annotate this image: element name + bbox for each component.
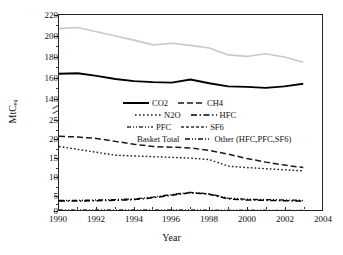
x-axis-title: Year	[0, 232, 343, 243]
x-tick-1998: 1998	[192, 214, 226, 224]
y-tick-140: 140	[6, 95, 58, 104]
x-tick-2002: 2002	[268, 214, 302, 224]
y-tick-180: 180	[6, 53, 58, 62]
x-minortick-2003	[304, 207, 305, 209]
x-tickmark-1998	[209, 207, 210, 211]
legend-item-hfc: HFC	[191, 110, 237, 120]
legend-row-2: N2O HFC	[113, 109, 318, 121]
x-minortick-1991	[77, 207, 78, 209]
x-tickmark-1996	[171, 207, 172, 211]
series-n2o	[59, 146, 303, 170]
legend-sample-n2o	[135, 111, 161, 119]
legend-label-pfc: PFC	[156, 122, 171, 132]
legend-sample-pfc	[127, 123, 153, 131]
legend-label-n2o: N2O	[164, 110, 181, 120]
x-minortick-1997	[190, 207, 191, 209]
x-tickmark-2004	[322, 207, 323, 211]
plot-area: CO2 CH4 N2O HFC	[58, 14, 323, 211]
y-tick-220: 220	[6, 11, 58, 20]
x-minortick-1995	[152, 207, 153, 209]
legend-row-4: Basket Total Other (HFC,PFC,SF6)	[113, 133, 318, 145]
chart-legend: CO2 CH4 N2O HFC	[113, 97, 318, 145]
legend-sample-ch4	[178, 99, 204, 107]
y-tick-5: 5	[6, 192, 58, 201]
legend-label-ch4: CH4	[207, 98, 223, 108]
x-tick-1994: 1994	[117, 214, 151, 224]
legend-sample-hfc	[191, 111, 217, 119]
legend-label-sf6: SF6	[210, 122, 224, 132]
legend-item-n2o: N2O	[135, 110, 191, 120]
legend-label-hfc: HFC	[220, 110, 237, 120]
y-tick-200: 200	[6, 32, 58, 41]
series-other	[59, 192, 303, 200]
legend-item-co2: CO2	[123, 98, 178, 108]
legend-item-pfc: PFC	[127, 122, 181, 132]
legend-row-3: PFC SF6	[113, 121, 318, 133]
x-tick-1990: 1990	[41, 214, 75, 224]
y-tick-25: 25	[6, 116, 58, 125]
legend-item-ch4: CH4	[178, 98, 223, 108]
x-tick-2000: 2000	[230, 214, 264, 224]
legend-label-other: Other (HFC,PFC,SF6)	[214, 134, 291, 144]
legend-item-other: Other (HFC,PFC,SF6)	[185, 134, 291, 144]
x-tick-2004: 2004	[306, 214, 340, 224]
y-tickmark-0	[54, 211, 58, 212]
x-tickmark-1992	[96, 207, 97, 211]
chart-root: MtCeq 220 200 180 160 140 25 20 15 10 5 …	[0, 0, 343, 255]
x-tickmark-1994	[134, 207, 135, 211]
series-basket-total	[59, 28, 303, 63]
x-tick-1996: 1996	[154, 214, 188, 224]
y-tick-10: 10	[6, 173, 58, 182]
x-minortick-1993	[115, 207, 116, 209]
legend-row-1: CO2 CH4	[113, 97, 318, 109]
legend-sample-other	[185, 135, 211, 143]
x-tickmark-2002	[285, 207, 286, 211]
legend-label-basket-total: Basket Total	[137, 134, 179, 144]
y-axis-title: MtCeq	[7, 82, 18, 142]
legend-label-co2: CO2	[152, 98, 168, 108]
x-tickmark-2000	[247, 207, 248, 211]
x-tick-1992: 1992	[79, 214, 113, 224]
legend-sample-sf6	[181, 123, 207, 131]
x-tickmark-1990	[58, 207, 59, 211]
x-minortick-1999	[228, 207, 229, 209]
series-co2	[59, 73, 303, 88]
legend-item-sf6: SF6	[181, 122, 224, 132]
x-minortick-2001	[266, 207, 267, 209]
y-tick-20: 20	[6, 135, 58, 144]
y-tick-160: 160	[6, 74, 58, 83]
legend-sample-co2	[123, 99, 149, 107]
y-tick-15: 15	[6, 154, 58, 163]
